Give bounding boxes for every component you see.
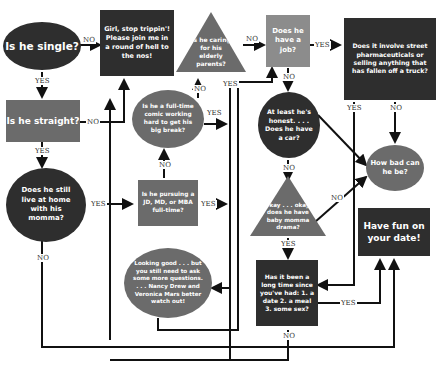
long-time-since-box: Has it been a long time since you've had…: [256, 260, 318, 326]
stop-text: Girl, stop trippin'! Please join me in a…: [104, 25, 170, 60]
job-text: Does he have a job?: [269, 27, 307, 55]
longtime-text: Has it been a long time since you've had…: [259, 273, 315, 313]
label-street-no: NO: [389, 104, 403, 112]
have-fun-on-your-date-box: Have fun on your date!: [358, 208, 430, 256]
label-jd-yes: YES: [200, 200, 217, 208]
jd-text: Is he pursuing a JD, MD, or MBA full-tim…: [141, 191, 195, 214]
label-elderly-yes: YES: [222, 80, 239, 88]
comic-text: Is he a full-time comic working hard to …: [138, 103, 198, 134]
girl-stop-trippin-box: Girl, stop trippin'! Please join me in a…: [100, 10, 174, 76]
label-comic-no: NO: [193, 85, 207, 93]
is-he-single-node: Is he single?: [3, 22, 81, 70]
label-elderly-no: NO: [245, 35, 259, 43]
pursuing-jd-md-mba-box: Is he pursuing a JD, MD, or MBA full-tim…: [138, 180, 198, 226]
label-babymomma-no: NO: [330, 194, 344, 202]
label-longtime-no: NO: [282, 332, 296, 340]
label-babymomma-yes: YES: [280, 240, 297, 248]
honest-text: At least he's honest. . . . Does he have…: [264, 108, 314, 142]
looking-good-ellipse: Looking good . . . but you still need to…: [124, 248, 212, 318]
is-he-straight-box: Is he straight?: [6, 100, 80, 142]
label-momma-yes: YES: [90, 200, 107, 208]
label-momma-no: NO: [36, 254, 50, 262]
straight-text: Is he straight?: [6, 115, 79, 127]
full-time-comic-ellipse: Is he a full-time comic working hard to …: [132, 90, 204, 148]
momma-text: Does he still live at home with his momm…: [14, 186, 78, 224]
label-longtime-yes: YES: [340, 299, 357, 307]
live-with-momma-ellipse: Does he still live at home with his momm…: [6, 168, 86, 242]
does-he-have-a-job-box: Does he have a job?: [266, 15, 310, 67]
babymomma-text: Okay . . . okay, does he have baby momma…: [264, 202, 312, 232]
label-job-no: NO: [282, 73, 296, 81]
street-pharmaceuticals-box: Does it involve street pharmaceuticals o…: [344, 18, 436, 100]
label-straight-no: NO: [86, 118, 100, 126]
looking-text: Looking good . . . but you still need to…: [132, 260, 204, 305]
how-bad-can-he-be-ellipse: How bad can he be?: [366, 145, 424, 191]
fundate-text: Have fun on your date!: [362, 220, 426, 244]
label-street-yes: YES: [346, 104, 363, 112]
street-text: Does it involve street pharmaceuticals o…: [349, 42, 431, 75]
label-single-yes: YES: [34, 77, 51, 85]
label-comic-yes: YES: [206, 109, 223, 117]
label-honest-no: NO: [282, 164, 296, 172]
label-straight-yes: YES: [34, 147, 51, 155]
label-jd-no: NO: [158, 161, 172, 169]
is-he-single-text: Is he single?: [5, 39, 79, 53]
howbad-text: How bad can he be?: [370, 159, 420, 177]
at-least-honest-ellipse: At least he's honest. . . . Does he have…: [258, 92, 320, 158]
label-job-yes: YES: [314, 41, 331, 49]
label-single-no: NO: [82, 36, 96, 44]
elderly-text: Is he caring for his elderly parents?: [189, 36, 233, 68]
